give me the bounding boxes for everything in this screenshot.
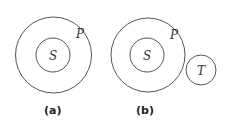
- label-t: T: [197, 64, 206, 78]
- set-diagrams: S P (a) S P T (b): [0, 0, 227, 124]
- caption-a: (a): [44, 104, 61, 117]
- caption-b: (b): [136, 104, 154, 117]
- label-s: S: [143, 49, 151, 63]
- label-p: P: [169, 28, 179, 42]
- label-p: P: [75, 27, 85, 41]
- diagram-b: S P T (b): [111, 18, 216, 117]
- label-s: S: [49, 49, 57, 63]
- diagram-a: S P (a): [16, 17, 92, 117]
